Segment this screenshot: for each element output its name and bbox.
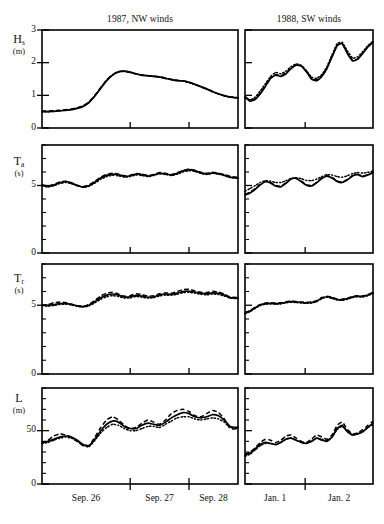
panel-frame bbox=[245, 388, 373, 484]
panel-frame bbox=[42, 30, 238, 128]
x-tick-label: Sep. 28 bbox=[179, 493, 249, 503]
y-tick-label: 5 bbox=[10, 179, 36, 189]
series-measured bbox=[245, 173, 373, 195]
series-model-a bbox=[245, 42, 373, 100]
series-measured bbox=[245, 293, 373, 313]
series-model-a bbox=[42, 71, 238, 111]
panel-L-1988 bbox=[245, 388, 373, 490]
x-tick-label: Sep. 26 bbox=[51, 493, 121, 503]
y-tick-label: 0 bbox=[10, 122, 36, 132]
series-model-b bbox=[42, 417, 238, 447]
panel-Ta-1987 bbox=[37, 145, 238, 253]
y-tick-label: 50 bbox=[10, 424, 36, 434]
panel-Hs-1988 bbox=[245, 30, 373, 128]
panel-Ta-1988 bbox=[245, 145, 373, 253]
y-tick-label: 1 bbox=[10, 89, 36, 99]
panel-frame bbox=[245, 145, 373, 253]
y-tick-label: 0 bbox=[10, 478, 36, 488]
y-tick-label: 3 bbox=[10, 24, 36, 34]
series-measured bbox=[42, 71, 238, 112]
series-model-b bbox=[245, 41, 373, 100]
panel-frame bbox=[245, 30, 373, 128]
series-measured bbox=[42, 170, 238, 188]
panel-frame bbox=[42, 145, 238, 253]
panel-frame bbox=[245, 264, 373, 374]
panel-frame bbox=[42, 388, 238, 484]
y-tick-label: 0 bbox=[10, 368, 36, 378]
y-tick-label: 2 bbox=[10, 56, 36, 66]
plot-canvas bbox=[0, 0, 384, 524]
series-measured bbox=[245, 42, 373, 101]
y-tick-label: 0 bbox=[10, 247, 36, 257]
x-tick-label: Jan. 2 bbox=[304, 493, 374, 503]
series-model-a bbox=[42, 409, 238, 446]
panel-L-1987 bbox=[37, 388, 238, 490]
panel-Tr-1988 bbox=[245, 264, 373, 374]
y-tick-label: 5 bbox=[10, 299, 36, 309]
wave-parameter-timeseries-figure: 1987, NW winds 1988, SW winds Hs (m) Ta … bbox=[0, 0, 384, 524]
series-model-b bbox=[245, 171, 373, 191]
series-model-b bbox=[42, 71, 238, 111]
panel-Hs-1987 bbox=[37, 30, 238, 128]
series-model-a bbox=[245, 421, 373, 454]
panel-Tr-1987 bbox=[37, 264, 238, 374]
x-tick-label: Jan. 1 bbox=[240, 493, 310, 503]
panel-frame bbox=[42, 264, 238, 374]
